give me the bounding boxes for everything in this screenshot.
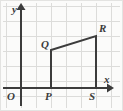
vertex-label-r: R — [99, 23, 106, 34]
coordinate-grid-figure — [0, 0, 123, 111]
x-axis-label: x — [104, 74, 110, 85]
geometry-figure-screenshot: y x O P Q R S — [0, 0, 123, 111]
vertex-label-s: S — [89, 91, 95, 102]
figure-background — [0, 0, 123, 111]
y-axis-label: y — [12, 4, 17, 15]
vertex-label-p: P — [45, 91, 52, 102]
vertex-label-q: Q — [41, 39, 49, 50]
origin-label: O — [7, 91, 15, 102]
